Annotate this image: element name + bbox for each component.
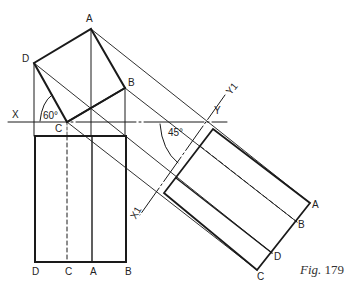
axis-label-x: X bbox=[12, 110, 19, 120]
angle-60: 60° bbox=[43, 111, 58, 121]
plan-label-d: D bbox=[22, 54, 29, 64]
aux-label-c: C bbox=[257, 272, 264, 282]
plan-label-a: A bbox=[86, 14, 93, 24]
plan-label-b: B bbox=[128, 78, 135, 88]
front-label-b: B bbox=[125, 267, 132, 277]
front-view bbox=[35, 136, 126, 262]
aux-label-a: A bbox=[312, 200, 319, 210]
front-label-a: A bbox=[90, 267, 97, 277]
angle-45: 45° bbox=[168, 128, 183, 138]
plan-label-c: C bbox=[55, 124, 62, 134]
front-label-c: C bbox=[65, 267, 72, 277]
aux-label-b: B bbox=[298, 220, 305, 230]
front-label-d: D bbox=[32, 267, 39, 277]
figure-caption: Fig. 179 bbox=[300, 262, 344, 278]
projection-drawing bbox=[0, 0, 363, 296]
x1y1-line bbox=[140, 95, 225, 215]
plan-square bbox=[34, 29, 125, 122]
aux-label-d: D bbox=[274, 252, 281, 262]
axis-label-y: Y bbox=[214, 106, 221, 116]
